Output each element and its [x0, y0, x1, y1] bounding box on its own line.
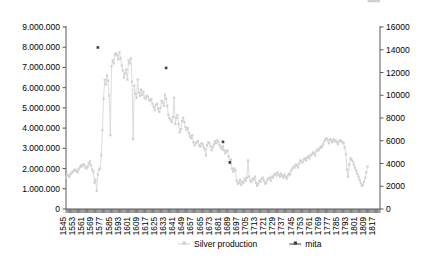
x-ticklabel: 1561: [77, 217, 86, 236]
silver-production-point: [126, 78, 128, 80]
silver-production-point: [104, 78, 106, 80]
mita-point: [229, 161, 232, 164]
silver-production-point: [244, 178, 246, 180]
silver-production-point: [166, 105, 168, 107]
silver-production-point: [109, 134, 111, 136]
silver-production-point: [272, 177, 274, 179]
y-ticklabel-left: 3.000.000: [22, 143, 60, 153]
silver-production-point: [279, 176, 281, 178]
x-ticklabel: 1625: [150, 217, 159, 236]
x-ticklabel: 1697: [232, 217, 241, 236]
silver-production-point: [96, 190, 98, 192]
silver-production-point: [116, 54, 118, 56]
x-ticklabel: 1753: [296, 217, 305, 236]
silver-production-point: [149, 100, 151, 102]
silver-production-point: [220, 146, 222, 148]
x-ticklabel: 1729: [268, 217, 277, 236]
x-ticklabel: 1713: [250, 217, 259, 236]
y-axis-left: 01.000.0002.000.0003.000.0004.000.0005.0…: [22, 22, 66, 214]
silver-production-point: [239, 179, 241, 181]
x-ticklabel: 1705: [241, 217, 250, 236]
x-ticklabel: 1545: [59, 217, 68, 236]
silver-production-point: [254, 176, 256, 178]
silver-production-point: [120, 57, 122, 59]
x-ticklabel: 1569: [86, 217, 95, 236]
x-ticklabel: 1649: [177, 217, 186, 236]
silver-production-point: [289, 174, 291, 176]
silver-production-point: [250, 181, 252, 183]
silver-production-point: [208, 142, 210, 144]
y-ticklabel-right: 0: [386, 204, 391, 214]
silver-production-point: [150, 98, 152, 100]
silver-production-point: [183, 121, 185, 123]
silver-production-point: [168, 117, 170, 119]
silver-production-point: [281, 175, 283, 177]
silver-production-point: [141, 94, 143, 96]
silver-production-point: [366, 165, 368, 167]
silver-production-point: [172, 116, 174, 118]
silver-production-point: [203, 146, 205, 148]
silver-production-point: [346, 168, 348, 170]
silver-production-point: [191, 134, 193, 136]
silver-production-point: [308, 157, 310, 159]
silver-production-point: [139, 95, 141, 97]
silver-production-point: [129, 62, 131, 64]
silver-production-point: [221, 148, 223, 150]
silver-production-point: [185, 129, 187, 131]
legend-swatch: [294, 242, 297, 245]
silver-production-point: [187, 127, 189, 129]
silver-production-point: [184, 126, 186, 128]
silver-production-point: [189, 135, 191, 137]
silver-production-point: [355, 169, 357, 171]
silver-production-point: [321, 146, 323, 148]
silver-production-point: [135, 97, 137, 99]
mita-point: [222, 141, 225, 144]
x-ticklabel: 1601: [123, 217, 132, 236]
silver-production-point: [356, 173, 358, 175]
silver-production-point: [201, 143, 203, 145]
silver-production-point: [240, 184, 242, 186]
legend-label: mita: [305, 239, 321, 249]
silver-production-point: [317, 149, 319, 151]
silver-production-point: [325, 137, 327, 139]
silver-production-point: [282, 177, 284, 179]
silver-production-point: [257, 183, 259, 185]
silver-production-point: [132, 138, 134, 140]
silver-production-point: [117, 58, 119, 60]
x-axis: 1545155315611569157715851593160116091617…: [59, 209, 380, 235]
silver-production-point: [362, 184, 364, 186]
y-ticklabel-right: 14000: [386, 45, 410, 55]
y-ticklabel-right: 8000: [386, 113, 405, 123]
silver-production-point: [218, 144, 220, 146]
silver-production-point: [193, 144, 195, 146]
silver-production-point: [253, 179, 255, 181]
silver-production-point: [314, 154, 316, 156]
silver-production-point: [192, 141, 194, 143]
y-ticklabel-left: 2.000.000: [22, 164, 60, 174]
silver-production-point: [102, 98, 104, 100]
silver-production-point: [179, 131, 181, 133]
silver-production-point: [262, 177, 264, 179]
silver-production-point: [358, 179, 360, 181]
silver-production-point: [223, 149, 225, 151]
y-ticklabel-right: 2000: [386, 181, 405, 191]
silver-production-point: [214, 140, 216, 142]
silver-production-point: [364, 177, 366, 179]
silver-production-point: [242, 182, 244, 184]
chart-legend: Silver productionmita: [178, 239, 322, 249]
silver-production-point: [305, 159, 307, 161]
silver-production-point: [127, 59, 129, 61]
silver-production-point: [83, 164, 85, 166]
silver-production-point: [287, 175, 289, 177]
silver-production-point: [123, 76, 125, 78]
y-ticklabel-left: 9.000.000: [22, 22, 60, 32]
silver-production-point: [302, 161, 304, 163]
silver-production-point: [122, 69, 124, 71]
silver-production-point: [226, 149, 228, 151]
silver-production-point: [204, 148, 206, 150]
silver-production-point: [270, 180, 272, 182]
silver-production-point: [284, 176, 286, 178]
silver-production-point: [213, 143, 215, 145]
silver-production-point: [188, 132, 190, 134]
silver-production-point: [265, 182, 267, 184]
